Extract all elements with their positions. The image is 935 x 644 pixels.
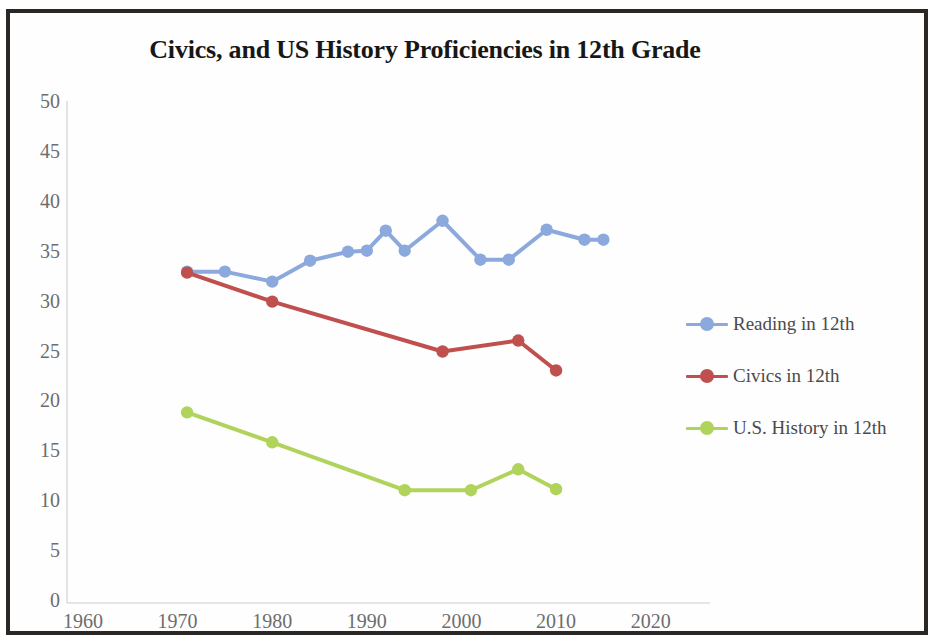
data-point[interactable] xyxy=(266,275,278,287)
legend-item-2[interactable]: U.S. History in 12th xyxy=(686,402,926,454)
legend-marker-icon xyxy=(700,369,714,383)
chart-canvas: Civics, and US History Proficiencies in … xyxy=(10,13,924,631)
data-point[interactable] xyxy=(436,215,448,227)
legend-label: U.S. History in 12th xyxy=(733,417,887,439)
data-point[interactable] xyxy=(512,334,524,346)
data-point[interactable] xyxy=(266,295,278,307)
series-u-s-history-in-12th xyxy=(181,406,562,496)
legend-item-1[interactable]: Civics in 12th xyxy=(686,350,926,402)
data-point[interactable] xyxy=(219,265,231,277)
data-point[interactable] xyxy=(361,245,373,257)
data-point[interactable] xyxy=(474,253,486,265)
data-point[interactable] xyxy=(181,266,193,278)
data-point[interactable] xyxy=(436,345,448,357)
data-point[interactable] xyxy=(304,254,316,266)
legend-marker-icon xyxy=(700,317,714,331)
data-point[interactable] xyxy=(550,364,562,376)
legend-label: Civics in 12th xyxy=(733,365,840,387)
data-point[interactable] xyxy=(503,253,515,265)
data-point[interactable] xyxy=(266,436,278,448)
data-point[interactable] xyxy=(181,406,193,418)
data-point[interactable] xyxy=(597,234,609,246)
series-reading-in-12th xyxy=(181,215,610,288)
data-point[interactable] xyxy=(380,225,392,237)
axis-lines xyxy=(67,101,710,603)
legend-swatch-icon xyxy=(686,421,728,435)
series-line xyxy=(187,273,556,371)
data-point[interactable] xyxy=(398,245,410,257)
legend-swatch-icon xyxy=(686,369,728,383)
data-point[interactable] xyxy=(465,484,477,496)
chart-frame: Civics, and US History Proficiencies in … xyxy=(6,9,928,635)
data-point[interactable] xyxy=(398,484,410,496)
data-point[interactable] xyxy=(342,246,354,258)
data-point[interactable] xyxy=(578,234,590,246)
series-civics-in-12th xyxy=(181,266,562,376)
legend-item-0[interactable]: Reading in 12th xyxy=(686,298,926,350)
series-line xyxy=(187,412,556,490)
data-point[interactable] xyxy=(550,483,562,495)
chart-legend: Reading in 12thCivics in 12thU.S. Histor… xyxy=(686,298,926,454)
data-point[interactable] xyxy=(540,224,552,236)
legend-marker-icon xyxy=(700,421,714,435)
data-series-layer xyxy=(181,215,610,497)
legend-swatch-icon xyxy=(686,317,728,331)
data-point[interactable] xyxy=(512,463,524,475)
legend-label: Reading in 12th xyxy=(733,313,854,335)
